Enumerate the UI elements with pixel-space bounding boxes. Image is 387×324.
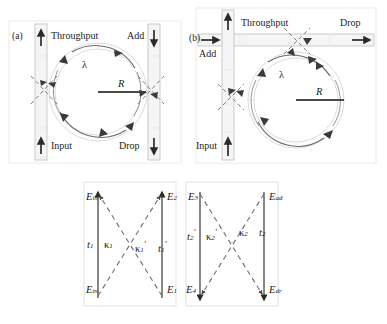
kappa1p-prime: ′ (144, 239, 146, 249)
diag-kappa2p (200, 194, 262, 294)
ring-arc-a-bottom (60, 112, 126, 137)
label-throughput-a: Throughput (51, 31, 98, 41)
label-radius-b: R (316, 87, 322, 98)
label-drop-a: Drop (119, 141, 140, 151)
e-ad-sub: ad (275, 194, 282, 202)
e-1-sub: 1 (173, 287, 177, 295)
ring-dir-a-4 (60, 113, 69, 122)
label-e-in: Ein (86, 285, 98, 296)
e-dr-sub: dr (275, 287, 281, 295)
e-in-sub: in (92, 287, 97, 295)
label-e-2: E2 (167, 192, 177, 203)
panel-a-tag: (a) (12, 32, 23, 42)
kappa2-sub: 2 (244, 230, 248, 238)
label-kappa1: κ1 (104, 240, 113, 251)
e-4-sub: 4 (192, 287, 196, 295)
label-t1-prime: t1′ (158, 240, 166, 254)
e-th-sub: th (92, 194, 97, 202)
label-input-b: Input (196, 141, 217, 151)
label-e-ad: Ead (269, 192, 282, 203)
t1-sub: 1 (90, 242, 94, 250)
e-3-sub: 3 (194, 194, 198, 202)
figure-root: (a) Throughput Add Input Drop λ R (b) Th… (0, 0, 387, 324)
label-kappa2: κ2 (239, 228, 248, 239)
t1p-prime: ′ (164, 239, 166, 249)
label-e-4: E4 (186, 285, 196, 296)
label-lambda-a: λ (82, 60, 87, 71)
label-e-3: E3 (188, 192, 198, 203)
label-add-a: Add (127, 31, 144, 41)
label-e-1: E1 (167, 285, 177, 296)
t2-sub: 2 (262, 230, 266, 238)
label-t1: t1 (87, 240, 93, 251)
ring-dir-a-3 (99, 128, 108, 137)
ring-dir-a-5 (59, 55, 68, 64)
label-add-b: Add (199, 49, 216, 59)
label-lambda-b: λ (279, 70, 284, 81)
label-kappa1-prime: κ1′ (135, 240, 146, 254)
label-drop-b: Drop (340, 18, 361, 28)
label-kappa2-prime: κ2′ (206, 228, 217, 242)
panel-b-tag: (b) (189, 34, 200, 44)
label-throughput-b: Throughput (241, 18, 288, 28)
panel-a-graphics (0, 0, 387, 324)
kappa2p-prime: ′ (215, 227, 217, 237)
t2p-prime: ′ (193, 227, 195, 237)
e-2-sub: 2 (173, 194, 177, 202)
label-t2-prime: t2′ (187, 228, 195, 242)
label-radius-a: R (118, 79, 124, 90)
label-t2: t2 (259, 228, 265, 239)
diag-kappa2 (202, 194, 264, 294)
kappa1-sub: 1 (109, 242, 113, 250)
label-e-th: Eth (86, 192, 98, 203)
label-e-dr: Edr (269, 285, 282, 296)
label-input-a: Input (51, 141, 72, 151)
